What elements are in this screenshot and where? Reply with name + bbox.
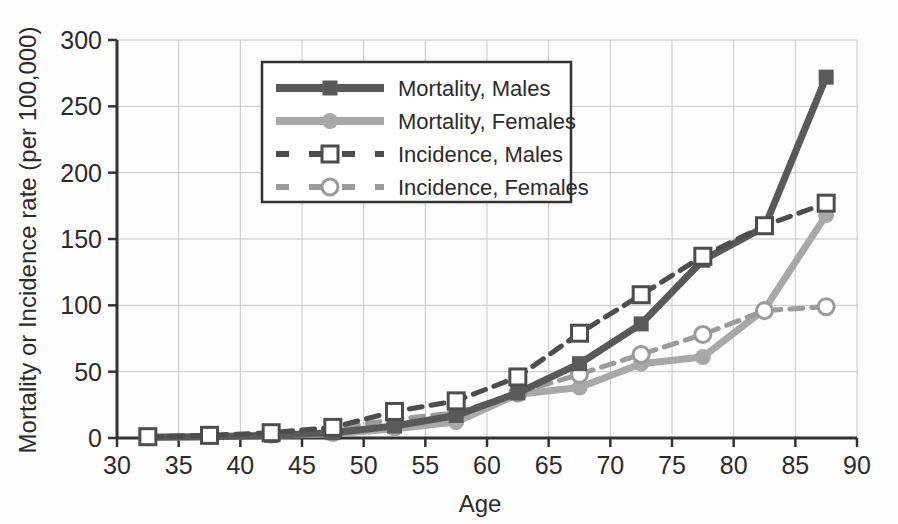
x-tick-label: 30 (103, 451, 131, 479)
data-point-marker (510, 385, 525, 400)
x-tick-label: 70 (596, 451, 624, 479)
y-tick-label: 300 (60, 26, 102, 54)
x-tick-label: 35 (165, 451, 193, 479)
legend-label: Mortality, Males (398, 76, 550, 101)
data-point-marker (140, 429, 156, 445)
y-tick-label: 200 (60, 159, 102, 187)
y-tick-label: 100 (60, 291, 102, 319)
data-point-marker (695, 248, 711, 264)
x-tick-label: 55 (411, 451, 439, 479)
legend-swatch-marker (322, 179, 338, 195)
data-point-marker (510, 369, 526, 385)
data-point-marker (633, 346, 649, 362)
x-tick-label: 85 (781, 451, 809, 479)
data-point-marker (757, 218, 773, 234)
data-point-marker (263, 425, 279, 441)
x-tick-label: 65 (535, 451, 563, 479)
y-tick-label: 250 (60, 92, 102, 120)
legend-label: Incidence, Females (398, 175, 589, 200)
legend-swatch-marker (322, 113, 338, 129)
x-tick-label: 75 (658, 451, 686, 479)
data-point-marker (572, 325, 588, 341)
y-tick-label: 0 (88, 424, 102, 452)
chart-figure: 0501001502002503003035404550556065707580… (0, 0, 898, 524)
x-axis-title: Age (459, 490, 502, 517)
x-tick-label: 90 (843, 451, 871, 479)
y-tick-label: 50 (74, 358, 102, 386)
data-point-marker (818, 299, 834, 315)
data-point-marker (757, 303, 773, 319)
legend-label: Mortality, Females (398, 109, 576, 134)
x-tick-label: 45 (288, 451, 316, 479)
data-point-marker (572, 356, 587, 371)
data-point-marker (819, 70, 834, 85)
y-tick-label: 150 (60, 225, 102, 253)
data-point-marker (818, 195, 834, 211)
data-point-marker (325, 419, 341, 435)
x-tick-label: 40 (226, 451, 254, 479)
x-tick-label: 50 (350, 451, 378, 479)
x-tick-label: 80 (720, 451, 748, 479)
data-point-marker (695, 327, 711, 343)
legend-swatch-marker (323, 81, 338, 96)
data-point-marker (202, 427, 218, 443)
x-tick-label: 60 (473, 451, 501, 479)
data-point-marker (634, 316, 649, 331)
legend-swatch-marker (322, 146, 338, 162)
legend-label: Incidence, Males (398, 142, 563, 167)
data-point-marker (448, 393, 464, 409)
chart-legend: Mortality, MalesMortality, FemalesIncide… (262, 62, 589, 202)
data-point-marker (695, 349, 711, 365)
data-point-marker (387, 403, 403, 419)
mortality-incidence-line-chart: 0501001502002503003035404550556065707580… (0, 0, 898, 524)
data-point-marker (633, 287, 649, 303)
y-axis-title: Mortality or Incidence rate (per 100,000… (14, 27, 41, 454)
